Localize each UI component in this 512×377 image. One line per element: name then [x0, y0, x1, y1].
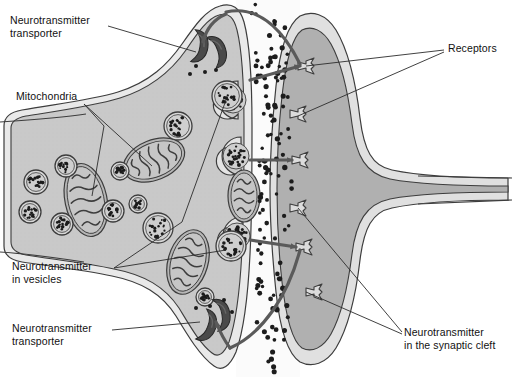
neurotransmitter-molecule [280, 76, 283, 79]
neurotransmitter-molecule [269, 113, 273, 117]
neurotransmitter-molecule [222, 298, 226, 302]
synaptic-vesicle [164, 112, 192, 140]
leader-transporter-top [108, 26, 196, 52]
neurotransmitter-molecule [262, 329, 267, 334]
neurotransmitter-molecule [265, 167, 270, 172]
mitochondrion [228, 170, 260, 222]
neurotransmitter-molecule [281, 105, 285, 109]
neurotransmitter-molecule [286, 95, 290, 99]
neurotransmitter-molecule [273, 236, 277, 240]
neurotransmitter-molecule [282, 214, 286, 218]
neurotransmitter-molecule [272, 19, 276, 23]
neurotransmitter-molecule [281, 153, 285, 157]
neurotransmitter-molecule [278, 65, 281, 68]
neurotransmitter-molecule [278, 260, 283, 265]
neurotransmitter-molecule [282, 328, 287, 333]
neurotransmitter-molecule [268, 60, 273, 65]
synapse-diagram: Neurotransmittertransporter Mitochondria… [0, 0, 512, 377]
neurotransmitter-molecule [286, 315, 290, 319]
label-neurotransmitter-in-synaptic-cleft: Neurotransmitterin the synaptic cleft [404, 326, 495, 352]
neurotransmitter-molecule [259, 261, 263, 265]
neurotransmitter-molecule [258, 164, 262, 168]
neurotransmitter-molecule [261, 285, 264, 288]
neurotransmitter-molecule [194, 306, 198, 310]
neurotransmitter-molecule [258, 195, 263, 200]
neurotransmitter-molecule [254, 3, 258, 7]
neurotransmitter-molecule [277, 277, 281, 281]
neurotransmitter-molecule [265, 335, 270, 340]
synaptic-vesicle [19, 201, 41, 223]
neurotransmitter-molecule [263, 236, 267, 240]
neurotransmitter-molecule [268, 297, 273, 302]
neurotransmitter-molecule [255, 58, 259, 62]
label-neurotransmitter-in-vesicles: Neurotransmitterin vesicles [12, 260, 92, 286]
neurotransmitter-molecule [261, 208, 265, 212]
neurotransmitter-molecule [274, 76, 278, 80]
neurotransmitter-molecule [286, 127, 290, 131]
neurotransmitter-molecule [194, 64, 198, 68]
neurotransmitter-molecule [275, 272, 280, 277]
neurotransmitter-molecule [272, 118, 277, 123]
label-line: transporter [10, 27, 62, 39]
label-line: Neurotransmitter [12, 322, 92, 334]
neurotransmitter-molecule [284, 61, 288, 65]
neurotransmitter-molecule [203, 70, 207, 74]
neurotransmitter-molecule [287, 224, 291, 228]
neurotransmitter-molecule [264, 84, 269, 89]
neurotransmitter-molecule [272, 55, 276, 59]
neurotransmitter-molecule [258, 211, 262, 215]
neurotransmitter-molecule [282, 165, 287, 170]
neurotransmitter-molecule [274, 327, 279, 332]
neurotransmitter-molecule [277, 142, 281, 146]
label-neurotransmitter-transporter-bottom: Neurotransmittertransporter [12, 322, 92, 348]
neurotransmitter-molecule [230, 310, 234, 314]
neurotransmitter-molecule [280, 45, 285, 50]
neurotransmitter-molecule [258, 228, 262, 232]
label-line: Neurotransmitter [10, 14, 90, 26]
neurotransmitter-molecule [208, 304, 212, 308]
synaptic-vesicle [196, 288, 214, 306]
neurotransmitter-molecule [269, 172, 272, 175]
label-line: in the synaptic cleft [404, 339, 495, 351]
neurotransmitter-molecule [272, 293, 276, 297]
neurotransmitter-molecule [257, 291, 262, 296]
neurotransmitter-molecule [260, 147, 263, 150]
neurotransmitter-molecule [266, 133, 270, 137]
label-mitochondria: Mitochondria [16, 90, 77, 103]
neurotransmitter-molecule [254, 51, 258, 55]
label-line: Neurotransmitter [12, 260, 92, 272]
neurotransmitter-molecule [287, 136, 291, 140]
neurotransmitter-molecule [214, 68, 218, 72]
neurotransmitter-molecule [265, 198, 269, 202]
neurotransmitter-molecule [272, 369, 277, 374]
neurotransmitter-molecule [269, 47, 273, 51]
neurotransmitter-molecule [284, 303, 289, 308]
neurotransmitter-molecule [256, 248, 260, 252]
synaptic-vesicle [129, 195, 147, 213]
neurotransmitter-molecule [275, 136, 280, 141]
synaptic-vesicle [51, 213, 73, 235]
neurotransmitter-molecule [283, 228, 287, 232]
synaptic-vesicle [216, 231, 246, 261]
neurotransmitter-molecule [273, 105, 278, 110]
label-line: in vesicles [12, 273, 62, 285]
diagram-canvas [0, 0, 512, 377]
neurotransmitter-molecule [188, 72, 192, 76]
neurotransmitter-molecule [262, 179, 267, 184]
label-line: transporter [12, 335, 64, 347]
neurotransmitter-molecule [289, 179, 293, 183]
neurotransmitter-molecule [267, 33, 272, 38]
label-line: Neurotransmitter [404, 326, 484, 338]
neurotransmitter-molecule [255, 320, 259, 324]
neurotransmitter-molecule [289, 186, 294, 191]
neurotransmitter-molecule [259, 279, 264, 284]
neurotransmitter-molecule [277, 174, 281, 178]
synaptic-vesicle [212, 81, 242, 111]
neurotransmitter-molecule [275, 192, 278, 195]
synaptic-vesicle [24, 170, 48, 194]
label-neurotransmitter-transporter-top: Neurotransmittertransporter [10, 14, 90, 40]
synaptic-vesicle [102, 200, 124, 222]
neurotransmitter-molecule [258, 199, 262, 203]
label-receptors: Receptors [448, 42, 497, 55]
neurotransmitter-molecule [264, 221, 269, 226]
